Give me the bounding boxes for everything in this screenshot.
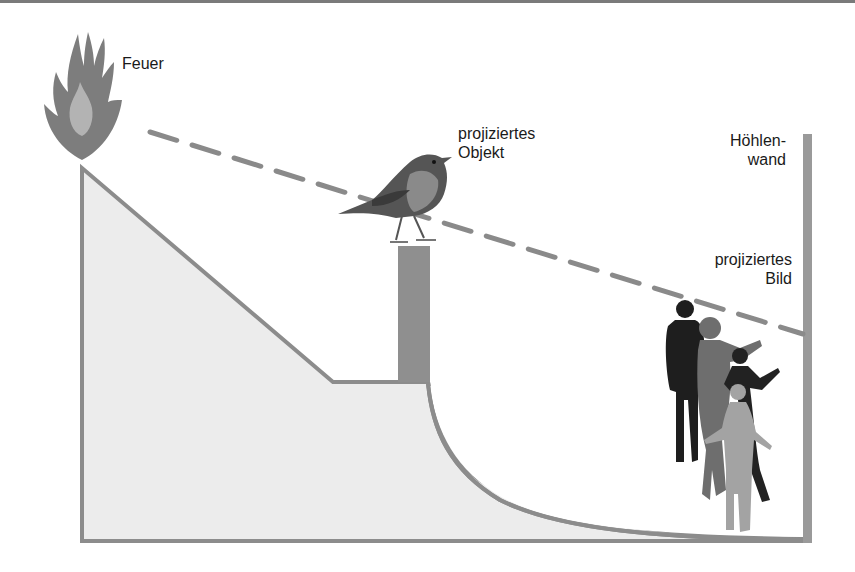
cave-wall-label-line2: wand (714, 150, 786, 169)
projected-object-label: projiziertes Objekt (458, 124, 535, 162)
cave-wall (803, 134, 812, 543)
fire-icon (44, 32, 122, 160)
projected-image-label-line2: Bild (680, 269, 792, 288)
projected-object-label-line1: projiziertes (458, 124, 535, 143)
fire-label: Feuer (122, 54, 164, 73)
cave-wall-label-line1: Höhlen- (714, 131, 786, 150)
projected-image-label: projiziertes Bild (680, 250, 792, 288)
projected-image-label-line1: projiziertes (680, 250, 792, 269)
bird-icon (338, 155, 452, 242)
light-ray (150, 132, 803, 334)
cave-wall-label: Höhlen- wand (714, 131, 786, 169)
post (398, 246, 430, 382)
projected-object-label-line2: Objekt (458, 143, 535, 162)
